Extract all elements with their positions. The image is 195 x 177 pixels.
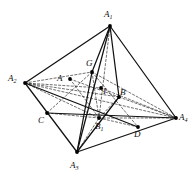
vertex-dot-b1 [97,116,101,120]
label-c: C [38,116,44,125]
label-a: A [57,74,63,83]
tetrahedron-diagram [0,0,195,177]
geometry-figure: A1 A2 A3 A4 B1 A B C D G I [0,0,195,177]
vertex-dot-g [90,70,94,74]
vertex-dot-a4 [174,116,178,120]
label-a1: A1 [104,10,113,19]
label-g: G [86,59,93,68]
label-a3: A3 [70,161,79,170]
label-i: I [103,87,106,96]
label-b: B [120,88,126,97]
label-d: D [134,130,141,139]
edge-A-B [70,79,119,97]
label-a4: A4 [179,113,188,122]
vertex-dot-c [45,111,49,115]
vertex-dot-a1 [108,24,112,28]
vertex-dot-a3 [75,150,79,154]
edge-A1-A4 [110,26,176,118]
vertex-dot-a [68,77,72,81]
label-a2: A2 [8,74,17,83]
vertex-dot-a2 [23,81,27,85]
label-b1: B1 [95,122,104,131]
